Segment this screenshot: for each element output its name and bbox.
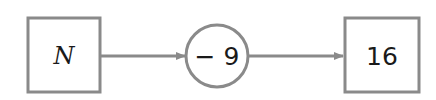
output-box: 16 (345, 18, 419, 92)
input-label: N (53, 42, 76, 70)
input-box: N (28, 18, 100, 92)
function-machine-diagram: N − 9 16 (0, 0, 436, 100)
operation-circle: − 9 (186, 25, 248, 87)
operation-label: − 9 (195, 42, 240, 71)
output-label: 16 (366, 42, 398, 71)
